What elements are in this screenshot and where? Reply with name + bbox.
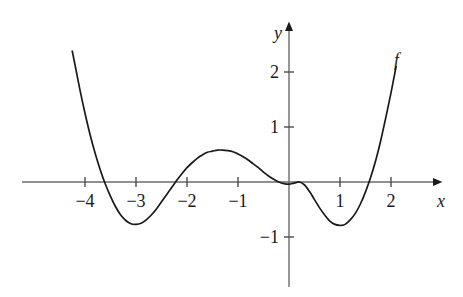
curve-label-f: f xyxy=(394,51,399,69)
function-graph-figure: y x f −4−3−2−112−112 xyxy=(0,0,463,297)
x-tick-label: −3 xyxy=(126,192,145,210)
y-tick-label: 2 xyxy=(270,63,279,81)
x-tick-label: −2 xyxy=(177,192,196,210)
axes-group xyxy=(22,30,434,287)
x-tick-label: 1 xyxy=(336,192,345,210)
y-tick-label: −1 xyxy=(260,228,279,246)
plot-canvas xyxy=(0,0,463,297)
y-axis-label: y xyxy=(274,24,282,42)
x-tick-label: −4 xyxy=(75,192,94,210)
x-axis-label: x xyxy=(437,192,445,210)
x-tick-label: −1 xyxy=(228,192,247,210)
y-tick-label: 1 xyxy=(270,118,279,136)
x-tick-label: 2 xyxy=(387,192,396,210)
